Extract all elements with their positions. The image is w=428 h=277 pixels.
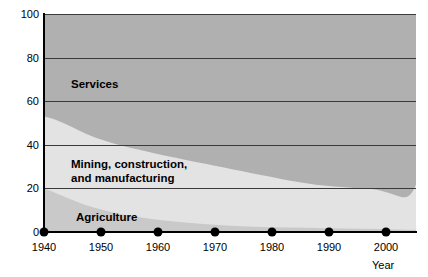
x-tick-1990: 1990 (317, 241, 341, 253)
x-marker-1970 (211, 228, 220, 237)
band-label-agriculture: Agriculture (76, 210, 137, 224)
y-axis-line (43, 13, 45, 233)
y-axis-tick-labels: 100 80 60 40 20 0 (0, 0, 39, 277)
plot-area: Services Mining, construction, and manuf… (44, 14, 416, 232)
x-marker-1950 (97, 228, 106, 237)
y-tick-60: 60 (27, 95, 39, 107)
gridline-40 (44, 145, 416, 146)
x-marker-1940 (40, 228, 49, 237)
band-label-mining-line2: and manufacturing (71, 171, 175, 185)
area-chart: 100 80 60 40 20 0 Services Mining, const… (0, 0, 428, 277)
stacked-area-bands (44, 14, 416, 232)
y-tick-100: 100 (21, 8, 39, 20)
y-tick-0: 0 (33, 226, 39, 238)
band-label-mining-line1: Mining, construction, (71, 157, 187, 171)
x-marker-1990 (325, 228, 334, 237)
x-tick-1950: 1950 (89, 241, 113, 253)
x-marker-1980 (268, 228, 277, 237)
x-tick-1940: 1940 (32, 241, 56, 253)
x-marker-2000 (382, 228, 391, 237)
y-tick-20: 20 (27, 182, 39, 194)
x-axis-title: Year (372, 259, 394, 271)
gridline-20 (44, 188, 416, 189)
gridline-100 (44, 14, 416, 15)
x-tick-1970: 1970 (203, 241, 227, 253)
band-label-services: Services (71, 77, 118, 91)
gridline-60 (44, 101, 416, 102)
x-marker-1960 (154, 228, 163, 237)
gridline-80 (44, 58, 416, 59)
x-tick-2000: 2000 (374, 241, 398, 253)
x-tick-1980: 1980 (260, 241, 284, 253)
x-tick-1960: 1960 (146, 241, 170, 253)
y-tick-80: 80 (27, 52, 39, 64)
y-tick-40: 40 (27, 139, 39, 151)
